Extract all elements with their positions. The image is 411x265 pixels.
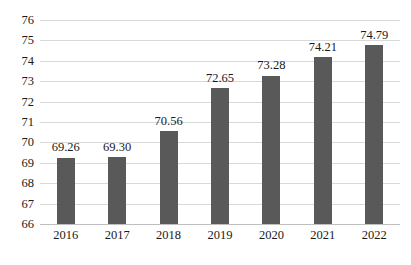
bar-value-label: 73.28 <box>245 59 297 72</box>
bar-value-label: 70.56 <box>143 115 195 128</box>
y-axis-tick-label: 71 <box>8 116 34 129</box>
x-axis-tick-label: 2016 <box>39 228 93 243</box>
y-axis-tick-label: 69 <box>8 157 34 170</box>
bar-value-label: 69.30 <box>91 141 143 154</box>
bar-chart: 7675747372717069686766 69.2669.3070.5672… <box>0 0 411 265</box>
y-axis-tick-label: 70 <box>8 136 34 149</box>
x-axis-tick-label: 2020 <box>244 228 298 243</box>
y-axis-tick-label: 73 <box>8 75 34 88</box>
y-axis-tick-label: 76 <box>8 14 34 27</box>
bar[interactable] <box>211 88 229 224</box>
bar-value-label: 74.79 <box>348 29 400 42</box>
bar-value-label: 69.26 <box>40 141 92 154</box>
bar[interactable] <box>314 57 332 224</box>
bar-value-label: 72.65 <box>194 72 246 85</box>
bar[interactable] <box>262 76 280 225</box>
x-axis: 2016201720182019202020212022 <box>40 228 400 250</box>
y-axis-tick-label: 75 <box>8 34 34 47</box>
x-axis-tick-label: 2017 <box>90 228 144 243</box>
x-axis-tick-label: 2022 <box>347 228 401 243</box>
y-axis-tick-label: 72 <box>8 95 34 108</box>
bar[interactable] <box>108 157 126 224</box>
y-axis-tick-label: 67 <box>8 197 34 210</box>
gridline <box>40 61 400 62</box>
x-axis-tick-label: 2019 <box>193 228 247 243</box>
x-axis-tick-label: 2018 <box>142 228 196 243</box>
bar-value-label: 74.21 <box>297 41 349 54</box>
bar[interactable] <box>365 45 383 224</box>
axis-baseline <box>40 224 400 225</box>
gridline <box>40 20 400 21</box>
bar[interactable] <box>57 158 75 225</box>
y-axis-tick-label: 68 <box>8 177 34 190</box>
x-axis-tick-label: 2021 <box>296 228 350 243</box>
plot-area: 69.2669.3070.5672.6573.2874.2174.79 <box>40 20 400 224</box>
y-axis: 7675747372717069686766 <box>6 20 34 224</box>
bar[interactable] <box>160 131 178 224</box>
y-axis-tick-label: 66 <box>8 218 34 231</box>
y-axis-tick-label: 74 <box>8 55 34 68</box>
